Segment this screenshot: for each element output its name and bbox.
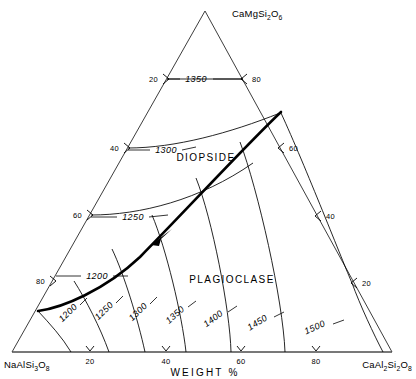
isotherm-1300-line xyxy=(112,249,145,352)
isotherm-label-1300: 1300 xyxy=(155,145,177,155)
isotherm-label-1350-top: 1350 xyxy=(185,74,207,84)
bottom-tick-60: 60 xyxy=(237,357,246,366)
isotherm-label-1250-lower: 1250 xyxy=(93,300,116,322)
corner-label-diopside: CaMgSi2O6 xyxy=(232,8,283,21)
isotherm-label-1350-lower: 1350 xyxy=(164,304,187,326)
tick-labels-left: 20 40 60 80 xyxy=(36,75,158,286)
corner-label-anorthite: CaAl2Si2O8 xyxy=(362,359,412,372)
isotherm-1500-line xyxy=(281,113,352,283)
bottom-tick-40: 40 xyxy=(162,357,171,366)
right-tick-60: 60 xyxy=(289,144,298,153)
isotherm-1300-line xyxy=(128,113,280,148)
isotherm-label-1450-lower: 1450 xyxy=(246,312,270,332)
plag-boundary-right xyxy=(352,283,383,352)
tick-labels-bottom: 20 40 60 80 xyxy=(86,357,321,366)
right-tick-20: 20 xyxy=(362,279,371,288)
isotherm-1400-line xyxy=(196,178,231,352)
isotherm-label-1400-lower: 1400 xyxy=(202,308,225,329)
isotherm-label-1200: 1200 xyxy=(86,271,108,281)
axis-title-weight-percent: WEIGHT % xyxy=(170,367,239,378)
left-tick-80: 80 xyxy=(36,277,45,286)
bottom-tick-80: 80 xyxy=(312,357,321,366)
isotherm-label-1250: 1250 xyxy=(122,212,144,222)
triangle-outline xyxy=(12,11,392,352)
left-tick-60: 60 xyxy=(73,211,82,220)
right-tick-80: 80 xyxy=(252,75,261,84)
field-label-plagioclase: PLAGIOCLASE xyxy=(189,274,274,285)
left-tick-20: 20 xyxy=(149,75,158,84)
isotherm-1350-line xyxy=(152,215,186,352)
isotherm-1250-line xyxy=(91,163,253,215)
isotherm-curves-diopside xyxy=(91,79,280,215)
ternary-phase-diagram: DIOPSIDE PLAGIOCLASE 1350 1300 1250 1200… xyxy=(0,0,416,379)
field-label-diopside: DIOPSIDE xyxy=(177,152,236,163)
bottom-tick-20: 20 xyxy=(86,357,95,366)
left-tick-40: 40 xyxy=(110,144,119,153)
tick-labels-right: 80 60 40 20 xyxy=(252,75,371,288)
right-tick-40: 40 xyxy=(326,212,335,221)
isotherm-label-1500-lower: 1500 xyxy=(303,318,327,336)
corner-label-albite: NaAlSi3O8 xyxy=(4,359,50,372)
isotherm-label-1300-lower: 1300 xyxy=(127,301,150,323)
field-labels: DIOPSIDE PLAGIOCLASE xyxy=(177,152,275,285)
cotectic-direction-arrow xyxy=(151,229,172,246)
